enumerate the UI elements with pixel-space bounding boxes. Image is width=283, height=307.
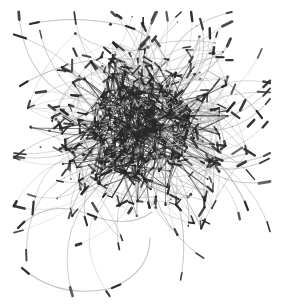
edge-tick <box>102 110 103 111</box>
edge-tick <box>142 166 143 167</box>
graph-node <box>30 127 32 129</box>
edge-tick <box>137 148 138 149</box>
edge-tick <box>197 44 198 45</box>
edge-tick <box>112 168 113 169</box>
edge-tip <box>104 151 105 156</box>
edge-tip <box>124 135 125 140</box>
graph-node <box>167 160 169 162</box>
graph-node <box>157 107 160 110</box>
edge-tick <box>58 122 59 123</box>
graph-node <box>122 165 124 167</box>
graph-node <box>121 172 122 173</box>
graph-node <box>225 145 226 146</box>
graph-node <box>107 166 109 168</box>
graph-node <box>61 127 63 129</box>
graph-node <box>122 239 124 241</box>
edge-tick <box>62 158 63 159</box>
edge-tick <box>117 136 118 137</box>
graph-node <box>110 169 113 172</box>
graph-node <box>79 79 82 82</box>
graph-node <box>135 94 137 96</box>
graph-node <box>122 84 124 86</box>
graph-node <box>210 108 213 111</box>
edge-tick <box>174 130 175 131</box>
graph-node <box>156 121 158 123</box>
graph-node <box>94 121 96 123</box>
graph-node <box>69 160 72 163</box>
graph-node <box>120 153 122 155</box>
edge-tick <box>132 96 133 97</box>
edge-tick <box>171 174 172 175</box>
edge-tick <box>119 162 120 163</box>
graph-node <box>148 152 150 154</box>
graph-node <box>100 55 104 59</box>
edge-tick <box>68 140 69 141</box>
graph-node <box>147 109 150 112</box>
graph-node <box>120 98 121 99</box>
graph-node <box>105 114 107 116</box>
graph-node <box>154 206 157 209</box>
graph-node <box>167 58 170 61</box>
graph-node <box>123 70 126 73</box>
edge-tick <box>112 115 113 116</box>
graph-node <box>92 202 94 204</box>
graph-node <box>152 167 154 169</box>
edge-tick <box>167 54 168 55</box>
graph-node <box>131 16 133 18</box>
graph-node <box>119 96 120 97</box>
graph-node <box>101 168 103 170</box>
graph-node <box>111 156 112 157</box>
graph-node <box>141 75 143 77</box>
graph-node <box>60 113 61 114</box>
graph-node <box>150 188 152 190</box>
graph-node <box>102 196 104 198</box>
edge-tick <box>215 165 216 166</box>
graph-node <box>136 177 138 179</box>
graph-node <box>123 64 127 68</box>
graph-node <box>143 178 146 181</box>
edge-tick <box>111 100 112 101</box>
edge-tick <box>142 70 143 71</box>
graph-node <box>143 83 146 86</box>
edge-tick <box>196 104 197 105</box>
graph-node <box>193 222 195 224</box>
edge-tick <box>139 74 140 75</box>
graph-node <box>136 172 138 174</box>
graph-node <box>51 120 53 122</box>
edge-tick <box>113 107 114 108</box>
graph-node <box>131 108 132 109</box>
graph-node <box>114 57 117 60</box>
edge-tick <box>236 93 237 94</box>
edge-tick <box>153 93 154 94</box>
graph-node <box>124 150 126 152</box>
edge-tick <box>180 127 181 128</box>
graph-node <box>149 73 151 75</box>
graph-node <box>138 131 141 134</box>
graph-node <box>183 129 184 130</box>
edge-tick <box>152 159 153 160</box>
graph-node <box>116 60 119 63</box>
edge-tip <box>19 12 20 20</box>
graph-node <box>126 127 128 129</box>
edge-tick <box>196 80 197 81</box>
edge-tick <box>121 164 122 165</box>
edge-tick <box>115 185 116 186</box>
graph-node <box>204 199 207 202</box>
graph-node <box>215 162 217 164</box>
edge-tick <box>139 116 140 117</box>
graph-node <box>102 119 103 120</box>
graph-node <box>219 164 221 166</box>
graph-node <box>166 148 167 149</box>
edge-tip <box>259 182 270 184</box>
edge-tick <box>117 89 118 90</box>
graph-node <box>221 159 224 162</box>
graph-node <box>70 94 72 96</box>
edge-tick <box>200 115 201 116</box>
edge-tick <box>112 101 113 102</box>
edge-tick <box>202 117 203 118</box>
edge-tick <box>161 64 162 65</box>
edge-tick <box>222 118 223 119</box>
edge-tick <box>105 137 106 138</box>
graph-node <box>182 116 185 119</box>
graph-node <box>146 46 149 49</box>
